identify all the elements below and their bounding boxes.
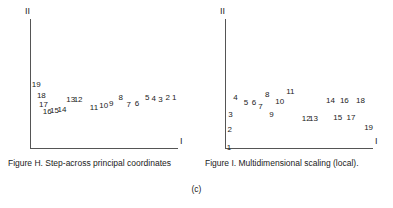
- data-point-label: 17: [347, 114, 356, 122]
- data-point-label: 6: [252, 99, 256, 107]
- data-point-label: 2: [227, 126, 231, 134]
- data-point-label: 13: [309, 115, 318, 123]
- x-axis-line: [225, 148, 373, 149]
- data-point-label: 16: [43, 108, 52, 116]
- figure-panel-h: II I 12345678910111213141516171819 Figur…: [8, 0, 191, 180]
- scatter-plot-h: II I 12345678910111213141516171819: [8, 6, 184, 149]
- data-point-label: 11: [286, 88, 294, 96]
- data-point-label: 1: [172, 94, 176, 102]
- data-point-label: 9: [269, 111, 273, 119]
- data-point-label: 18: [37, 92, 46, 100]
- data-point-label: 9: [109, 100, 113, 108]
- figure-pair-c: II I 12345678910111213141516171819 Figur…: [0, 0, 393, 208]
- data-point-label: 1: [227, 144, 231, 152]
- x-axis-label: I: [180, 137, 183, 146]
- data-point-label: 6: [135, 100, 139, 108]
- y-axis-label: II: [25, 7, 30, 16]
- data-point-label: 7: [127, 101, 131, 109]
- data-point-label: 15: [333, 114, 342, 122]
- subfigure-label: (c): [0, 184, 393, 195]
- data-point-label: 7: [258, 103, 262, 111]
- data-point-label: 13: [66, 96, 75, 104]
- data-point-label: 5: [145, 94, 149, 102]
- x-axis-line: [30, 148, 178, 149]
- data-point-label: 17: [39, 101, 48, 109]
- figure-caption-i: Figure I. Multidimensional scaling (loca…: [205, 158, 388, 169]
- data-point-label: 14: [326, 97, 335, 105]
- data-point-label: 5: [244, 99, 248, 107]
- data-point-label: 8: [118, 94, 122, 102]
- y-axis-line: [225, 19, 226, 149]
- data-point-label: 18: [356, 97, 365, 105]
- data-point-label: 8: [265, 91, 269, 99]
- scatter-plot-i: II I 12345678910111213141516171819: [203, 6, 379, 149]
- data-point-label: 19: [364, 124, 373, 132]
- data-point-label: 10: [275, 98, 284, 106]
- y-axis-label: II: [220, 7, 225, 16]
- x-axis-label: I: [375, 137, 378, 146]
- data-point-label: 4: [233, 94, 237, 102]
- data-point-label: 10: [99, 102, 108, 110]
- data-point-label: 3: [158, 96, 162, 104]
- figure-caption-h: Figure H. Step-across principal coordina…: [8, 158, 191, 169]
- data-point-label: 4: [152, 95, 156, 103]
- data-point-label: 3: [228, 111, 232, 119]
- data-point-label: 11: [90, 104, 98, 112]
- data-point-label: 16: [340, 97, 349, 105]
- data-point-label: 19: [32, 81, 41, 89]
- data-point-label: 2: [166, 94, 170, 102]
- figure-panel-i: II I 12345678910111213141516171819 Figur…: [203, 0, 386, 180]
